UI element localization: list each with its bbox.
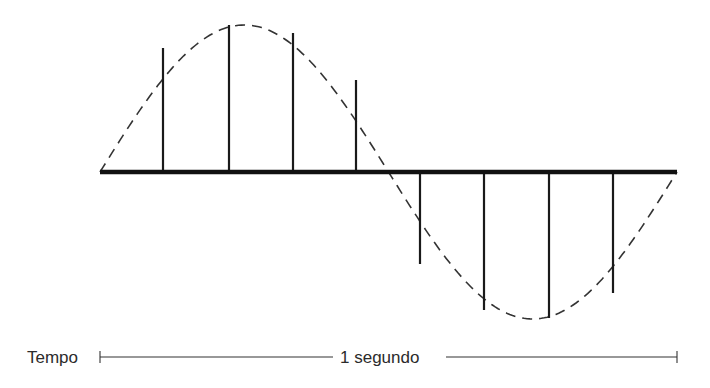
time-span-label: 1 segundo <box>340 348 419 367</box>
time-axis: Tempo 1 segundo <box>27 348 677 367</box>
sampled-wave-diagram: Tempo 1 segundo <box>0 0 710 388</box>
time-axis-label: Tempo <box>27 348 78 367</box>
